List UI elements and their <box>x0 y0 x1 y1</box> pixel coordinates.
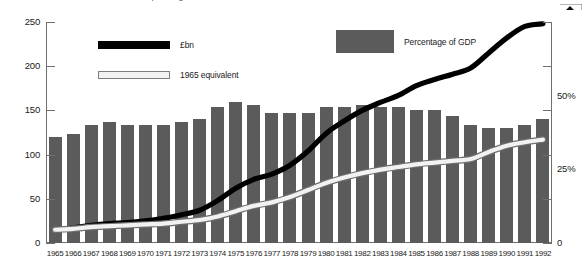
legend-item-gbp: £bn <box>98 40 194 50</box>
y-axis-label-left-150: 150 <box>0 104 40 115</box>
legend-label-1965: 1965 equivalent <box>180 70 239 80</box>
page-title: Public spending 1965-1992 <box>120 0 229 1</box>
y-axis-tick-right-50 <box>543 199 552 200</box>
y-axis-tick-left-50 <box>46 199 55 200</box>
y-axis-label-left-100: 100 <box>0 149 40 160</box>
chart-root: Public spending 1965-1992 05010015020025… <box>0 0 588 270</box>
legend-label-gbp: £bn <box>180 40 194 50</box>
y-axis-tick-left-0 <box>46 243 55 244</box>
y-axis-label-right-50pct: 50% <box>557 90 587 101</box>
y-axis-label-right-0: 0 <box>557 237 587 248</box>
x-axis-label-1992: 1992 <box>532 249 554 258</box>
y-axis-tick-right-200 <box>543 66 552 67</box>
legend-swatch-1965-icon <box>98 71 170 79</box>
corner-arrow-icon <box>560 0 582 10</box>
y-axis-label-left-250: 250 <box>0 16 40 27</box>
legend-swatch-gdp-icon <box>336 30 394 53</box>
chart-title-strip: Public spending 1965-1992 <box>0 0 588 7</box>
y-axis-label-left-0: 0 <box>0 237 40 248</box>
y-axis-tick-right-100 <box>543 155 552 156</box>
plot-area <box>46 22 552 243</box>
legend-label-gdp: Percentage of GDP <box>404 37 476 47</box>
y-axis-label-left-50: 50 <box>0 193 40 204</box>
legend-item-1965-equivalent: 1965 equivalent <box>98 70 239 80</box>
y-axis-label-left-200: 200 <box>0 60 40 71</box>
y-axis-tick-left-250 <box>46 22 55 23</box>
legend-item-gdp: Percentage of GDP <box>336 30 476 53</box>
y-axis-tick-left-150 <box>46 110 55 111</box>
x-axis-labels: 1965196619671968196919701971197219731974… <box>46 249 552 265</box>
y-axis-tick-right-150 <box>543 110 552 111</box>
y-axis-tick-right-250 <box>543 22 552 23</box>
y-axis-label-right-25pct: 25% <box>557 163 587 174</box>
y-axis-tick-left-100 <box>46 155 55 156</box>
legend-swatch-gbp-icon <box>98 41 170 49</box>
y-axis-tick-left-200 <box>46 66 55 67</box>
y-axis-tick-right-0 <box>543 243 552 244</box>
